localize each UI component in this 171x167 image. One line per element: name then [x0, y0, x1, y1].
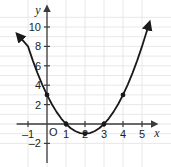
data-point: [64, 122, 69, 127]
data-point: [83, 131, 88, 136]
x-tick-label: 4: [120, 128, 126, 140]
y-axis-label: y: [34, 3, 41, 17]
y-tick-label: –2: [29, 137, 41, 149]
y-tick-label: 2: [35, 99, 41, 111]
y-tick-label: 10: [29, 21, 41, 33]
parabola-plot: –112345 –2246810 O x y: [0, 0, 171, 167]
origin-label: O: [49, 126, 58, 138]
data-point: [102, 122, 107, 127]
x-tick-label: 3: [101, 128, 107, 140]
graph-figure: –112345 –2246810 O x y: [0, 0, 171, 167]
curve-arrow-right: [147, 28, 148, 31]
x-axis-label: x: [153, 126, 160, 140]
x-tick-label: 1: [63, 128, 69, 140]
x-tick-label: 5: [139, 128, 145, 140]
data-point: [121, 93, 126, 98]
y-tick-label: 8: [35, 40, 41, 52]
data-point: [45, 93, 50, 98]
